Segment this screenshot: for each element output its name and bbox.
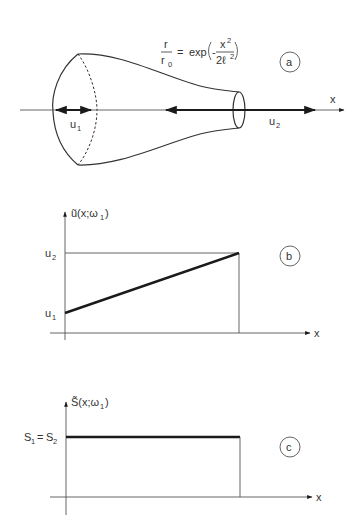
badge-b: b (286, 250, 292, 262)
u2-label: u (269, 115, 275, 127)
horn-bottom-profile (78, 128, 239, 165)
panel-a: r r 0 = exp - x 2 2ℓ 2 a x (20, 36, 344, 165)
panel-b: x ũ(x;ω 1 ) u 2 u 1 b (45, 207, 320, 340)
svg-text:2: 2 (230, 52, 234, 61)
svg-text:2: 2 (227, 36, 231, 45)
formula-r: r (164, 38, 168, 50)
x-axis-label-c: x (316, 491, 322, 503)
x-axis-label-a: x (330, 93, 336, 105)
u1-label: u (70, 118, 76, 130)
tick-u1: u (45, 307, 51, 319)
x-axis-label-b: x (314, 327, 320, 339)
tick-u2: u (45, 247, 51, 259)
y-axis-label-b: ũ(x;ω (71, 207, 98, 219)
svg-text:): ) (105, 207, 109, 219)
svg-text:): ) (105, 396, 109, 408)
svg-text:exp: exp (189, 46, 207, 58)
y-axis-label-c: S̃(x;ω (71, 396, 100, 408)
u-tilde-curve (65, 253, 239, 313)
horn-top-profile (78, 54, 239, 92)
badge-c: c (286, 441, 292, 453)
horn-formula: r r 0 = exp - x 2 2ℓ 2 (161, 36, 238, 69)
svg-text:1: 1 (100, 213, 104, 222)
formula-r0: r (161, 54, 165, 66)
svg-text:1: 1 (77, 124, 81, 133)
svg-text:2ℓ: 2ℓ (216, 54, 226, 66)
badge-a: a (286, 56, 293, 68)
svg-text:2: 2 (52, 253, 56, 262)
formula-paren-left (209, 42, 212, 60)
svg-text:1: 1 (100, 402, 104, 411)
svg-text:1: 1 (52, 313, 56, 322)
svg-text:=: = (177, 46, 183, 58)
svg-text:2: 2 (53, 437, 57, 446)
formula-paren-right (235, 42, 238, 60)
figure: r r 0 = exp - x 2 2ℓ 2 a x (0, 0, 356, 523)
svg-text:0: 0 (168, 60, 172, 69)
panel-c: x S̃(x;ω 1 ) S 1 = S 2 c (24, 396, 322, 515)
svg-text:=: = (34, 431, 47, 443)
tick-s1-eq-s2: S 1 = S 2 (24, 431, 57, 446)
svg-text:x: x (220, 38, 226, 50)
svg-text:2: 2 (276, 121, 280, 130)
